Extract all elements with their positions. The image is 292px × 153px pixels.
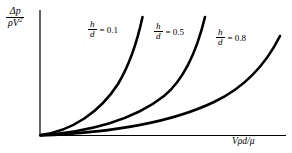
curve-label-h-d-0-1: h d = 0.1 xyxy=(88,20,118,40)
curve-label-denominator-1: d xyxy=(154,32,163,41)
curve-label-h-d-0-8: h d = 0.8 xyxy=(216,28,246,48)
y-axis-label-fraction: Δp ρV2 xyxy=(6,6,24,28)
y-axis-label: Δp ρV2 xyxy=(6,6,24,28)
curve-label-value-0: = 0.1 xyxy=(100,25,119,35)
figure-container: Δp ρV2 Vρd/μ h d = 0.1 h d = 0.5 h d = 0… xyxy=(0,0,292,153)
plot-area xyxy=(0,0,292,153)
x-axis-label: Vρd/μ xyxy=(232,136,255,146)
curve-label-value-1: = 0.5 xyxy=(166,27,185,37)
curve-label-denominator-0: d xyxy=(88,30,97,39)
curve-label-h-d-0-5: h d = 0.5 xyxy=(154,22,184,42)
curve-label-denominator-2: d xyxy=(216,38,225,47)
curve-label-fraction-1: h d xyxy=(154,22,163,42)
y-axis-label-denominator: ρV2 xyxy=(6,18,24,29)
curve-h-d-0-8 xyxy=(41,36,281,135)
curve-label-fraction-0: h d xyxy=(88,20,97,40)
curve-label-fraction-2: h d xyxy=(216,28,225,48)
y-axis-label-exponent: 2 xyxy=(19,15,23,23)
curve-label-value-2: = 0.8 xyxy=(228,33,247,43)
